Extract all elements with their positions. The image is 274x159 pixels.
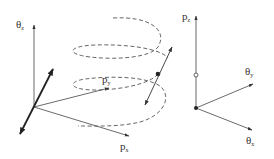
p-y-axis (34, 88, 109, 107)
helix-trajectory (73, 18, 168, 126)
label-p-x: px (120, 141, 129, 153)
phase-space-diagram (0, 0, 274, 159)
particle-tangent-arrow (145, 47, 172, 105)
label-theta-x: θx (246, 135, 254, 147)
origin-dot (194, 106, 198, 110)
label-theta-z: θz (16, 19, 24, 31)
theta-x-axis (196, 108, 252, 130)
origin-double-arrow (20, 69, 53, 134)
label-p-z: pz (182, 11, 190, 23)
open-circle-marker (194, 73, 198, 77)
left-panel (20, 18, 172, 136)
p-x-axis (34, 107, 129, 136)
label-p-y: py (102, 74, 111, 86)
theta-y-axis (196, 84, 253, 108)
label-theta-y: θy (245, 66, 253, 78)
